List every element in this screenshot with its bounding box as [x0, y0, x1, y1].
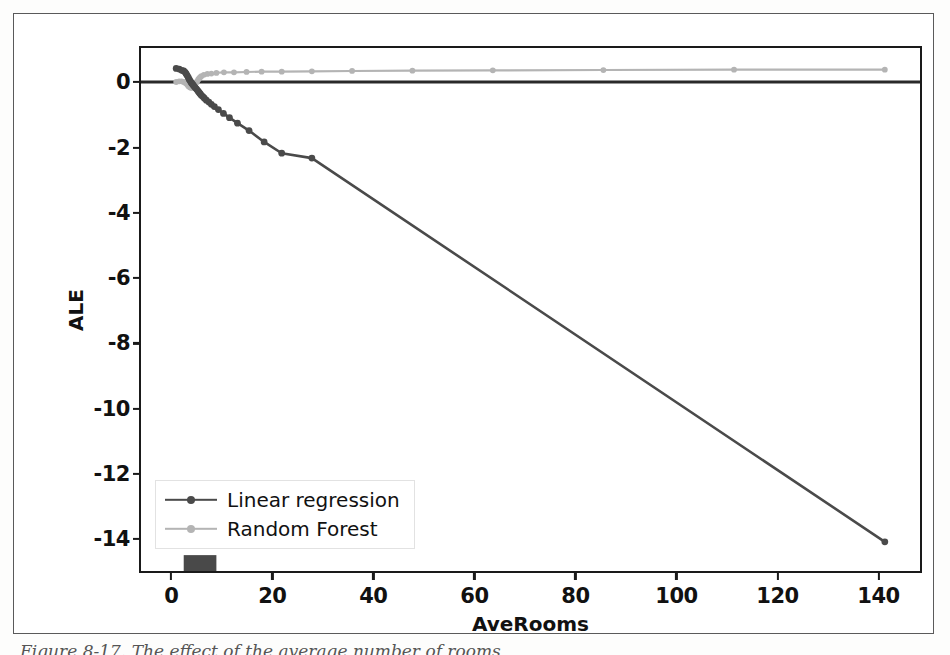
- y-tick-mark: [133, 342, 141, 344]
- series-marker: [600, 67, 606, 73]
- y-tick-mark: [133, 146, 141, 148]
- series-marker: [882, 67, 888, 73]
- series-marker: [234, 120, 241, 127]
- legend-marker-icon: [165, 493, 217, 507]
- series-marker: [308, 155, 315, 162]
- figure-frame: ALE AveRooms 0-2-4-6-8-10-12-14 02040608…: [13, 13, 934, 634]
- y-tick-mark: [133, 277, 141, 279]
- x-tick-mark: [675, 571, 677, 580]
- legend-item[interactable]: Random Forest: [165, 517, 400, 541]
- y-tick-mark: [133, 212, 141, 214]
- series-marker: [410, 68, 416, 74]
- series-marker: [259, 69, 265, 75]
- chart-legend: Linear regressionRandom Forest: [155, 480, 415, 549]
- legend-item[interactable]: Linear regression: [165, 488, 400, 512]
- x-tick-mark: [170, 571, 172, 580]
- series-linear-regression: [173, 65, 888, 545]
- y-axis-label: ALE: [64, 289, 88, 331]
- legend-marker-icon: [165, 522, 217, 536]
- series-marker: [731, 67, 737, 73]
- page-background: ALE AveRooms 0-2-4-6-8-10-12-14 02040608…: [0, 0, 950, 655]
- series-marker: [490, 67, 496, 73]
- y-tick-mark: [133, 473, 141, 475]
- series-marker: [309, 68, 315, 74]
- y-tick-mark: [133, 81, 141, 83]
- series-marker: [881, 538, 888, 545]
- series-marker: [213, 70, 219, 76]
- y-tick-mark: [133, 407, 141, 409]
- legend-label: Linear regression: [227, 488, 400, 512]
- x-tick-mark: [372, 571, 374, 580]
- rug-plot: [184, 555, 217, 571]
- series-marker: [220, 110, 227, 117]
- series-marker: [279, 69, 285, 75]
- series-marker: [246, 127, 253, 134]
- series-line: [176, 68, 885, 541]
- series-marker: [278, 150, 285, 157]
- x-tick-mark: [574, 571, 576, 580]
- x-tick-mark: [776, 571, 778, 580]
- series-marker: [208, 71, 214, 77]
- x-axis-label: AveRooms: [472, 612, 589, 636]
- x-tick-mark: [271, 571, 273, 580]
- x-tick-mark: [473, 571, 475, 580]
- series-marker: [261, 139, 268, 146]
- chart-axes: ALE AveRooms 0-2-4-6-8-10-12-14 02040608…: [139, 46, 922, 573]
- series-marker: [226, 114, 233, 121]
- series-marker: [349, 68, 355, 74]
- series-marker: [244, 69, 250, 75]
- y-tick-mark: [133, 538, 141, 540]
- series-random-forest: [173, 67, 887, 91]
- legend-label: Random Forest: [227, 517, 378, 541]
- x-tick-mark: [877, 571, 879, 580]
- series-marker: [221, 69, 227, 75]
- series-marker: [231, 69, 237, 75]
- figure-caption: Figure 8-17. The effect of the average n…: [20, 641, 920, 655]
